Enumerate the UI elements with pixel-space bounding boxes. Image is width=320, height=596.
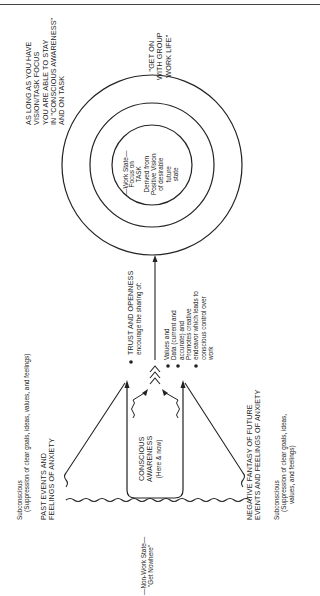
trust-items: Values and Data (current andaccurate) an… <box>163 291 215 360</box>
work-state-core: Focus onTASKDerived fromPositive Visiono… <box>128 154 180 195</box>
conscious-awareness: CONSCIOUSAWARENESS(Here & now) <box>138 436 162 482</box>
work-state-diagram: —Work State— Focus onTASKDerived fromPos… <box>0 0 320 596</box>
trust-block: TRUST AND OPENNESS encourage the sharing… <box>127 271 143 355</box>
past-subconscious: Subconscious (Suppression of clear goals… <box>16 354 31 520</box>
past-events: PAST EVENTS ANDFEELINGS OF ANXIETY <box>40 438 57 520</box>
group-note: "GET ONWITH GROUPWORK LIFE" <box>148 32 173 80</box>
future-fantasy: NEGATIVE FANTASY OF FUTUREEVENTS AND FEE… <box>246 390 263 520</box>
awareness-note: AS LONG AS YOU HAVEVISION/TASK FOCUSYOU … <box>25 18 66 125</box>
non-work-state: —Non-Work State—"Get Nowhere" <box>140 537 155 595</box>
future-subconscious: Subconscious (Suppression of clear goals… <box>273 414 295 520</box>
